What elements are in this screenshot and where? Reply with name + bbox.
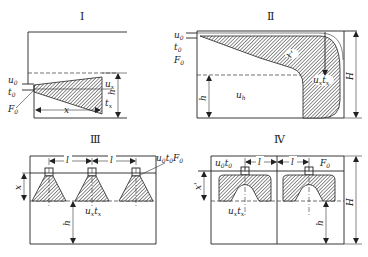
label-ux: ux [105, 79, 115, 90]
label-F0: F0 [173, 55, 184, 66]
label-xprime: x' [193, 182, 203, 190]
label-uh: uh [236, 90, 246, 101]
label-l2: l [110, 155, 113, 165]
label-tx: tx [105, 98, 113, 109]
label-h: h [62, 220, 72, 226]
label-u0: u0 [174, 30, 184, 41]
panel-title-IV: Ⅳ [274, 133, 286, 146]
diagram-canvas: Ⅰ x h u0 t0 F0 ux tx Ⅱ u0 t0 F0 [0, 0, 368, 257]
label-l1: l [66, 155, 69, 165]
label-h: h [198, 95, 208, 101]
nozzle-pipe [22, 84, 34, 90]
label-uxtx: uxtx [228, 206, 245, 217]
jet-left [219, 167, 271, 216]
label-l1: l [258, 157, 261, 167]
label-H: H [345, 198, 355, 207]
label-u0: u0 [8, 75, 18, 86]
label-u0t0: u0t0 [215, 158, 232, 169]
label-x: x [64, 105, 69, 115]
l-ticks [49, 158, 136, 165]
panel-title-III: Ⅲ [90, 133, 101, 146]
label-x: x [13, 185, 23, 190]
jet-1 [32, 168, 66, 206]
panel-II: Ⅱ u0 t0 F0 uxtx x' uh h H [173, 10, 362, 118]
label-h: h [107, 89, 117, 95]
label-H: H [345, 72, 355, 81]
label-l2: l [291, 157, 294, 167]
label-callout: u0t0F0 [156, 153, 183, 164]
F0-leader [16, 90, 34, 108]
panel-IV: Ⅳ u0t0 F0 l l x' uxtx [193, 133, 362, 244]
jet-right [283, 167, 335, 216]
label-t0: t0 [8, 87, 16, 98]
panel-I: Ⅰ x h u0 t0 F0 ux tx [7, 10, 127, 118]
panel-title-II: Ⅱ [267, 10, 274, 23]
label-t0: t0 [174, 42, 182, 53]
panel-III: Ⅲ l l u0t0F0 x [13, 133, 183, 244]
panel-title-I: Ⅰ [80, 10, 84, 23]
label-F0: F0 [7, 104, 18, 115]
label-uxtx: uxtx [85, 206, 102, 217]
label-h: h [315, 220, 325, 226]
jet-3 [119, 168, 153, 206]
label-F0: F0 [319, 158, 330, 169]
nozzle-pipe [186, 33, 197, 38]
jet-2 [75, 168, 109, 206]
